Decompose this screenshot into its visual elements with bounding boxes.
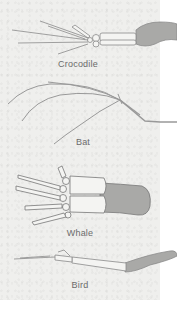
bird-limb <box>14 250 177 272</box>
bird-label: Bird <box>50 280 110 290</box>
whale-label: Whale <box>50 228 110 238</box>
bat-limb <box>8 82 177 144</box>
bat-label: Bat <box>53 137 113 147</box>
whale-limb <box>16 166 150 225</box>
crocodile-limb <box>12 21 177 54</box>
forelimb-illustrations <box>0 0 177 313</box>
crocodile-label: Crocodile <box>48 59 108 69</box>
